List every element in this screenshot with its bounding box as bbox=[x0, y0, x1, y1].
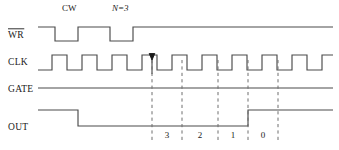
signal-row-out: OUT bbox=[8, 110, 333, 132]
count-label-3: 3 bbox=[165, 130, 170, 140]
waveform-out bbox=[38, 110, 333, 126]
signal-label-wr: WR bbox=[8, 30, 24, 40]
waveform-clk bbox=[38, 55, 333, 70]
signal-label-clk: CLK bbox=[8, 57, 28, 67]
count-label-1: 1 bbox=[231, 130, 236, 140]
count-label-0: 0 bbox=[261, 130, 266, 140]
annotation-cw: CW bbox=[62, 3, 77, 13]
signal-label-gate: GATE bbox=[8, 84, 33, 94]
count-marker-lines bbox=[152, 60, 278, 140]
count-value-labels: 3210 bbox=[165, 130, 266, 140]
signal-row-wr: WR bbox=[8, 27, 333, 41]
timing-diagram-figure: CW N=3 WR CLK GATE OUT bbox=[0, 0, 339, 150]
signal-row-clk: CLK bbox=[8, 54, 333, 75]
signal-label-out: OUT bbox=[8, 122, 28, 132]
waveform-wr bbox=[38, 27, 333, 41]
timing-diagram-canvas: CW N=3 WR CLK GATE OUT bbox=[0, 0, 339, 150]
signal-row-gate: GATE bbox=[8, 84, 333, 94]
clk-falling-edge-arrow bbox=[149, 54, 155, 75]
annotation-n-value: N=3 bbox=[111, 3, 129, 13]
count-label-2: 2 bbox=[198, 130, 203, 140]
